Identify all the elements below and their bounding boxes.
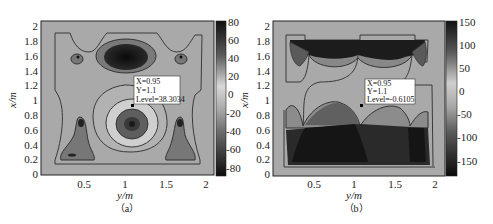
svg-text:-150: -150	[457, 155, 478, 167]
y-axis-b: 0 0.2 0.4 0.6 0.8 1 1.2 1.4 1.6 1.8 2	[256, 20, 270, 180]
datatip-marker-a[interactable]	[131, 104, 134, 107]
svg-text:1: 1	[33, 94, 39, 106]
svg-text:20: 20	[228, 70, 240, 82]
svg-text:0.2: 0.2	[256, 153, 270, 165]
svg-text:1.2: 1.2	[24, 79, 38, 91]
svg-text:-80: -80	[226, 162, 241, 174]
svg-text:0.8: 0.8	[256, 109, 270, 121]
svg-text:0.6: 0.6	[256, 124, 270, 136]
svg-text:2: 2	[265, 20, 271, 32]
panel-b: X=0.95 Y=1.1 Level=-0.6105 0 0.2 0.4 0.6…	[238, 16, 478, 214]
svg-text:1.6: 1.6	[256, 50, 270, 62]
y-axis-label-a: x/m	[6, 92, 18, 109]
y-axis-label-b: x/m	[238, 92, 250, 109]
svg-text:0: 0	[459, 85, 465, 97]
svg-text:1.8: 1.8	[256, 35, 270, 47]
svg-text:1.4: 1.4	[24, 65, 38, 77]
svg-text:80: 80	[228, 16, 240, 28]
colorbar-b	[446, 21, 457, 176]
x-axis-b: 0.5 1 1.5 2	[307, 178, 438, 190]
svg-text:1: 1	[265, 94, 271, 106]
svg-text:0.4: 0.4	[256, 139, 270, 151]
x-axis-a: 0.5 1 1.5 2	[77, 178, 209, 190]
svg-text:-100: -100	[457, 131, 478, 143]
svg-text:2: 2	[33, 20, 39, 32]
svg-text:0: 0	[33, 168, 39, 180]
datatip-x-a: X=0.95	[136, 77, 160, 86]
svg-text:1.8: 1.8	[24, 35, 38, 47]
svg-text:0: 0	[228, 88, 234, 100]
contour-top-inner-a	[104, 44, 148, 70]
svg-text:150: 150	[459, 16, 476, 28]
x-axis-label-a: y/m	[116, 189, 133, 201]
datatip-b[interactable]: X=0.95 Y=1.1 Level=-0.6105	[365, 79, 415, 104]
svg-text:50: 50	[459, 62, 471, 74]
svg-text:1.4: 1.4	[256, 65, 270, 77]
datatip-y-a: Y=1.1	[136, 86, 156, 95]
svg-text:1.2: 1.2	[256, 79, 270, 91]
datatip-level-a: Level=38.3034	[136, 95, 185, 104]
svg-text:0.5: 0.5	[307, 178, 321, 190]
caption-a: （a）	[115, 203, 139, 214]
svg-text:-40: -40	[226, 125, 241, 137]
y-axis-a: 0 0.2 0.4 0.6 0.8 1 1.2 1.4 1.6 1.8 2	[24, 20, 38, 180]
svg-text:1.6: 1.6	[24, 50, 38, 62]
datatip-level-b: Level=-0.6105	[367, 95, 414, 104]
figure: X=0.95 Y=1.1 Level=38.3034 0 0.2 0.4 0.6…	[0, 0, 493, 224]
svg-text:2: 2	[432, 178, 438, 190]
caption-b: （b）	[344, 203, 369, 214]
svg-text:0: 0	[265, 168, 271, 180]
datatip-marker-b[interactable]	[360, 104, 363, 107]
svg-text:-60: -60	[226, 143, 241, 155]
svg-text:0.8: 0.8	[24, 109, 38, 121]
datatip-a[interactable]: X=0.95 Y=1.1 Level=38.3034	[134, 76, 185, 104]
svg-text:1.5: 1.5	[159, 178, 173, 190]
colorbar-a	[216, 21, 226, 176]
svg-text:40: 40	[228, 52, 240, 64]
spot-left-a	[71, 54, 83, 64]
svg-text:0.4: 0.4	[24, 139, 38, 151]
svg-text:-50: -50	[457, 108, 472, 120]
svg-text:0.2: 0.2	[24, 153, 38, 165]
svg-text:0.6: 0.6	[24, 124, 38, 136]
svg-text:60: 60	[228, 34, 240, 46]
x-axis-label-b: y/m	[345, 189, 362, 201]
svg-text:2: 2	[203, 178, 209, 190]
svg-text:0.5: 0.5	[77, 178, 91, 190]
svg-text:1.5: 1.5	[388, 178, 402, 190]
panel-a: X=0.95 Y=1.1 Level=38.3034 0 0.2 0.4 0.6…	[6, 16, 241, 214]
colorbar-ticks-b: 150 100 50 0 -50 -100 -150	[457, 16, 478, 167]
svg-text:100: 100	[459, 39, 476, 51]
